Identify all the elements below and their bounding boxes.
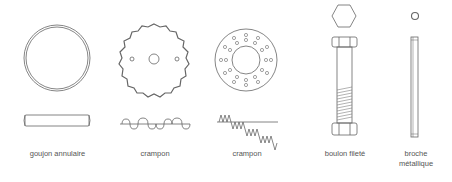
label-pin: broche métallique xyxy=(385,149,447,169)
label-ring-connector: goujon annulaire xyxy=(15,149,100,159)
ring-connector-top-view xyxy=(24,25,90,91)
label-spiked-ring: crampon xyxy=(207,149,287,159)
pin-side-view xyxy=(411,37,418,137)
spiked-ring-top-view xyxy=(215,29,277,91)
bolt-hex-top-view xyxy=(332,5,356,27)
label-bolt: boulon fileté xyxy=(305,149,385,159)
toothed-plate-top-view xyxy=(119,24,189,97)
label-pin-line2: métallique xyxy=(385,159,447,169)
bolt-side-view xyxy=(332,37,357,135)
spiked-ring-side-view xyxy=(217,115,278,150)
ring-connector-side-view xyxy=(24,115,90,126)
pin-top-view xyxy=(412,13,419,20)
label-toothed-plate: crampon xyxy=(115,149,195,159)
toothed-plate-side-view xyxy=(120,118,190,129)
label-pin-line1: broche xyxy=(385,149,447,159)
